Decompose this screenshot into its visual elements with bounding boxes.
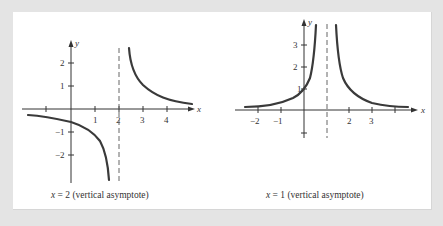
y-tick-label: 2 (293, 62, 298, 72)
y-axis-arrow-icon (302, 19, 307, 26)
y-axis-label: y (307, 17, 312, 27)
curve-left-branch (245, 25, 316, 107)
x-axis-label: x (420, 105, 425, 115)
caption-text: = 1 (vertical asymptote) (270, 190, 363, 200)
x-tick-label: −2 (250, 116, 260, 126)
curve-right-branch (336, 25, 408, 107)
caption-chart-1: x = 2 (vertical asymptote) (51, 190, 149, 200)
caption-text: = 2 (vertical asymptote) (55, 190, 148, 200)
y-tick-label: 3 (293, 40, 298, 50)
caption-chart-2: x = 1 (vertical asymptote) (266, 190, 364, 200)
x-tick-label: 3 (369, 116, 374, 126)
x-axis-arrow-icon (411, 108, 418, 113)
x-tick-label: −1 (273, 116, 283, 126)
x-tick-label: 2 (347, 116, 352, 126)
